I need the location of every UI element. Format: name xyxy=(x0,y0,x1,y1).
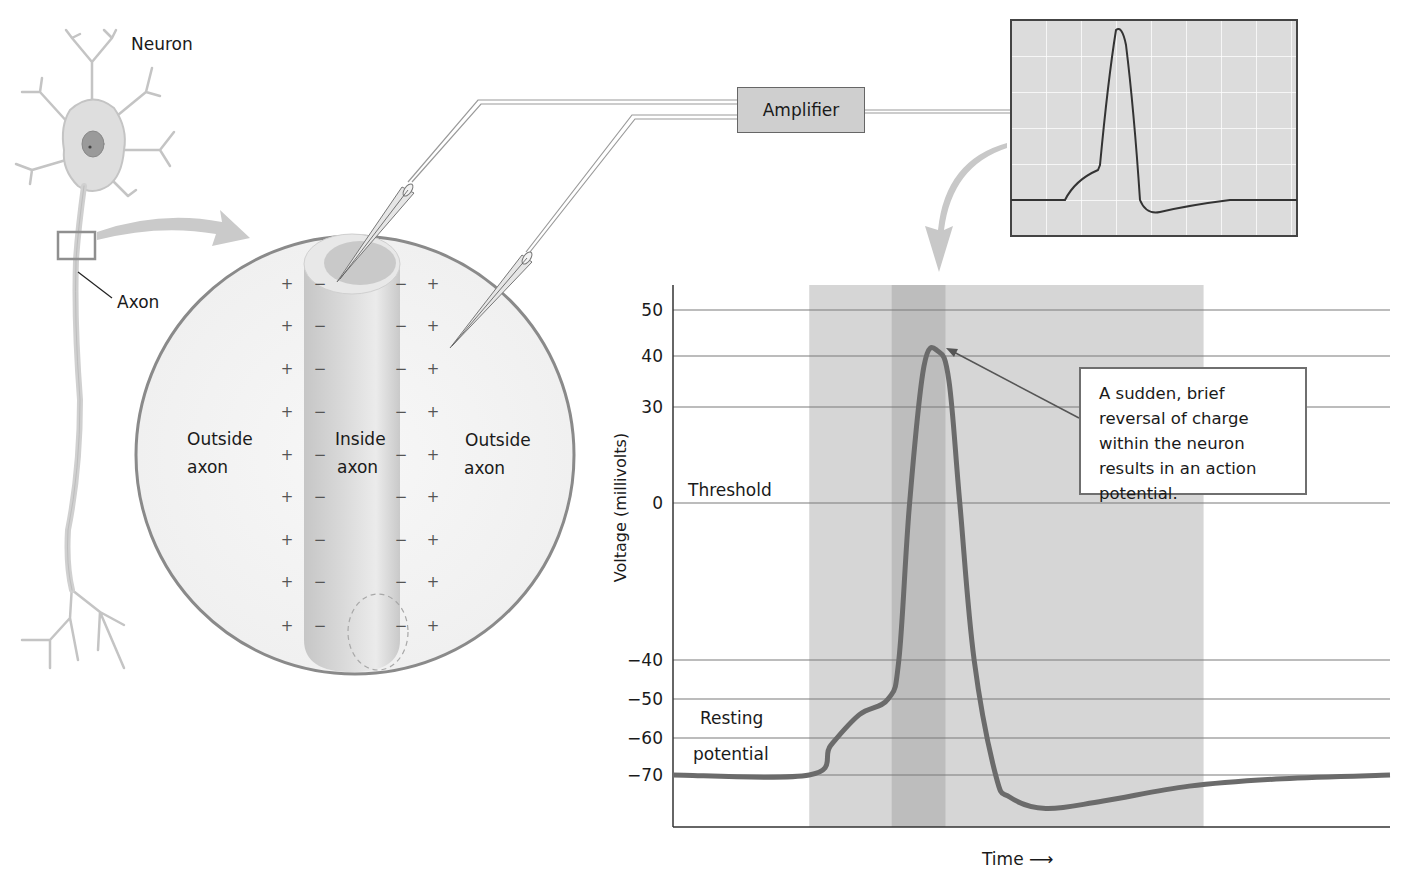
minus-charge: − xyxy=(395,446,408,464)
callout-text: A sudden, brief reversal of charge withi… xyxy=(1099,384,1256,503)
minus-charge: − xyxy=(395,275,408,293)
plus-charge: + xyxy=(427,446,440,464)
neuron-illustration xyxy=(16,30,174,668)
minus-charge: − xyxy=(314,275,327,293)
threshold-label: Threshold xyxy=(687,480,772,500)
oscilloscope-screen xyxy=(1011,20,1297,236)
minus-charge: − xyxy=(314,531,327,549)
axon-label: Axon xyxy=(117,292,159,312)
minus-charge: − xyxy=(314,573,327,591)
axon-leader-line xyxy=(78,272,112,298)
plus-charge: + xyxy=(427,488,440,506)
plus-charge: + xyxy=(427,403,440,421)
plus-charge: + xyxy=(281,317,294,335)
time-label: Time xyxy=(982,849,1024,869)
y-tick-label: 30 xyxy=(641,397,663,417)
minus-charge: − xyxy=(395,317,408,335)
inside-axon-line1: Inside xyxy=(335,429,386,449)
nucleus xyxy=(82,131,104,157)
plus-charge: + xyxy=(427,617,440,635)
y-axis-label: Voltage (millivolts) xyxy=(611,408,630,608)
y-tick-label: −50 xyxy=(627,689,663,709)
minus-charge: − xyxy=(314,617,327,635)
minus-charge: − xyxy=(314,446,327,464)
plus-charge: + xyxy=(427,275,440,293)
minus-charge: − xyxy=(395,617,408,635)
callout-box: A sudden, brief reversal of charge withi… xyxy=(1079,367,1307,495)
shaded-region-dark xyxy=(892,285,946,827)
time-arrow-icon: ⟶ xyxy=(1029,849,1053,869)
y-tick-label: 0 xyxy=(652,493,663,513)
outside-axon-left-line2: axon xyxy=(187,457,228,477)
down-arrow-icon xyxy=(925,143,1007,272)
plus-charge: + xyxy=(281,403,294,421)
plus-charge: + xyxy=(281,531,294,549)
resting-label-line1: Resting xyxy=(700,708,763,728)
resting-label-line2: potential xyxy=(693,744,769,764)
plus-charge: + xyxy=(281,573,294,591)
plus-charge: + xyxy=(427,573,440,591)
x-axis-label: Time ⟶ xyxy=(982,849,1053,869)
plus-charge: + xyxy=(281,275,294,293)
minus-charge: − xyxy=(314,403,327,421)
amplifier-label: Amplifier xyxy=(763,100,840,120)
axon-shaft xyxy=(68,186,85,590)
y-tick-label: 50 xyxy=(641,300,663,320)
plus-charge: + xyxy=(427,360,440,378)
outside-axon-right-line2: axon xyxy=(464,458,505,478)
zoom-arrow-icon xyxy=(97,210,250,246)
inside-axon-line2: axon xyxy=(337,457,378,477)
minus-charge: − xyxy=(395,488,408,506)
y-tick-label: −70 xyxy=(627,765,663,785)
plus-charge: + xyxy=(281,617,294,635)
minus-charge: − xyxy=(314,317,327,335)
minus-charge: − xyxy=(395,573,408,591)
amplifier-box: Amplifier xyxy=(737,87,865,133)
minus-charge: − xyxy=(395,360,408,378)
neuron-label: Neuron xyxy=(131,34,193,54)
outside-axon-right-line1: Outside xyxy=(465,430,531,450)
minus-charge: − xyxy=(314,360,327,378)
plus-charge: + xyxy=(427,317,440,335)
minus-charge: − xyxy=(395,531,408,549)
magnified-axon xyxy=(136,234,574,674)
y-tick-label: −40 xyxy=(627,650,663,670)
plus-charge: + xyxy=(281,446,294,464)
minus-charge: − xyxy=(314,488,327,506)
plus-charge: + xyxy=(281,488,294,506)
y-tick-label: −60 xyxy=(627,728,663,748)
electrode-wires xyxy=(408,100,1011,252)
outside-axon-left-line1: Outside xyxy=(187,429,253,449)
plus-charge: + xyxy=(427,531,440,549)
plus-charge: + xyxy=(281,360,294,378)
minus-charge: − xyxy=(395,403,408,421)
y-tick-label: 40 xyxy=(641,346,663,366)
